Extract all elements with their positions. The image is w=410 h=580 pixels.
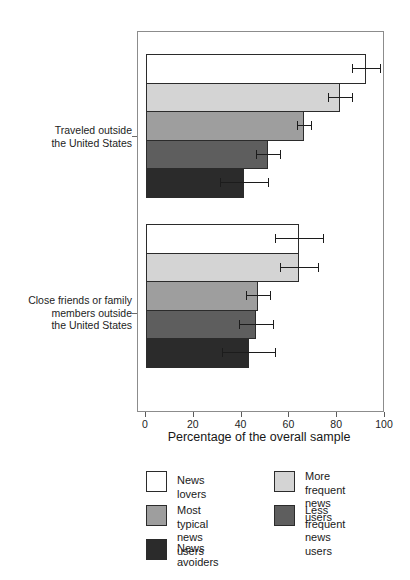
error-bar-0-1 xyxy=(328,97,352,98)
error-bar-0-3 xyxy=(256,154,280,155)
bar-0-3 xyxy=(146,140,268,170)
legend-swatch-icon xyxy=(146,471,167,492)
error-cap-1-4-0 xyxy=(222,348,223,357)
label-line-1: the United States xyxy=(10,137,132,150)
error-cap-0-1-1 xyxy=(352,93,353,102)
x-tick-2 xyxy=(241,412,242,417)
error-bar-0-2 xyxy=(297,125,311,126)
bar-0-0 xyxy=(146,54,366,84)
x-tick-label-3: 60 xyxy=(268,418,308,430)
label-line-0: Traveled outside xyxy=(10,124,132,137)
error-bar-1-3 xyxy=(239,324,272,325)
plot-area xyxy=(138,32,383,411)
error-cap-1-1-0 xyxy=(280,263,281,272)
error-cap-0-3-1 xyxy=(280,150,281,159)
legend-label: Less frequent news users xyxy=(305,504,345,558)
error-cap-0-0-0 xyxy=(352,64,353,73)
error-cap-0-4-0 xyxy=(220,178,221,187)
error-cap-0-4-1 xyxy=(268,178,269,187)
error-cap-1-2-1 xyxy=(270,291,271,300)
error-cap-0-3-0 xyxy=(256,150,257,159)
x-tick-0 xyxy=(145,412,146,417)
error-cap-0-2-1 xyxy=(311,121,312,130)
category-label-0: Traveled outsidethe United States xyxy=(10,124,132,149)
legend-swatch-icon xyxy=(274,471,295,492)
error-bar-1-1 xyxy=(280,267,318,268)
legend-swatch-icon xyxy=(274,505,295,526)
error-cap-0-0-1 xyxy=(380,64,381,73)
x-tick-5 xyxy=(384,412,385,417)
label-line-0: Close friends or family xyxy=(2,294,132,307)
label-line-2: the United States xyxy=(2,319,132,332)
error-cap-0-1-0 xyxy=(328,93,329,102)
bar-1-2 xyxy=(146,281,258,311)
category-label-1: Close friends or familymembers outsideth… xyxy=(2,294,132,332)
bar-0-1 xyxy=(146,83,340,113)
error-cap-1-2-0 xyxy=(246,291,247,300)
label-line-1: members outside xyxy=(2,307,132,320)
x-tick-label-5: 100 xyxy=(364,418,404,430)
bar-1-1 xyxy=(146,253,299,283)
x-tick-label-0: 0 xyxy=(125,418,165,430)
x-tick-label-2: 40 xyxy=(221,418,261,430)
error-bar-1-0 xyxy=(275,238,323,239)
bar-0-2 xyxy=(146,111,304,141)
error-cap-1-3-0 xyxy=(239,320,240,329)
error-bar-1-2 xyxy=(246,295,270,296)
x-tick-label-4: 80 xyxy=(316,418,356,430)
error-cap-0-2-0 xyxy=(297,121,298,130)
error-cap-1-3-1 xyxy=(273,320,274,329)
legend-label: News avoiders xyxy=(177,542,219,569)
x-tick-3 xyxy=(288,412,289,417)
error-cap-1-0-0 xyxy=(275,234,276,243)
chart-figure: Traveled outsidethe United States Close … xyxy=(0,0,410,580)
x-tick-1 xyxy=(193,412,194,417)
error-cap-1-1-1 xyxy=(318,263,319,272)
legend-swatch-icon xyxy=(146,505,167,526)
error-bar-0-4 xyxy=(220,182,268,183)
error-cap-1-0-1 xyxy=(323,234,324,243)
legend-swatch-icon xyxy=(146,539,167,560)
error-bar-0-0 xyxy=(352,68,381,69)
x-tick-4 xyxy=(336,412,337,417)
legend-label: News lovers xyxy=(177,474,206,501)
error-bar-1-4 xyxy=(222,352,275,353)
plot-frame xyxy=(137,31,384,412)
error-cap-1-4-1 xyxy=(275,348,276,357)
x-axis-title: Percentage of the overall sample xyxy=(0,430,410,444)
x-tick-label-1: 20 xyxy=(173,418,213,430)
